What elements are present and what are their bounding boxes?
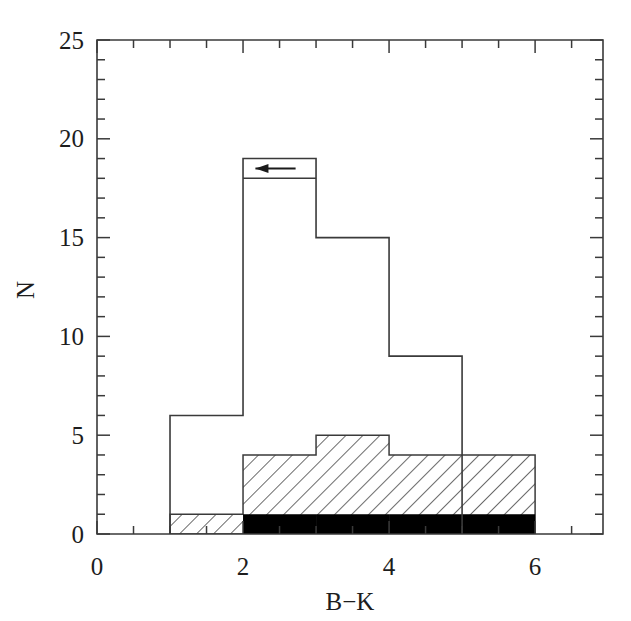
x-tick-label-0: 0 xyxy=(91,553,104,580)
y-axis-title: N xyxy=(12,281,39,299)
x-tick-label-2: 2 xyxy=(237,553,250,580)
y-tick-label-0: 0 xyxy=(72,521,85,548)
histogram-figure: 0 2 4 6 0 5 10 15 20 25 B−K N xyxy=(0,0,631,621)
x-tick-label-4: 4 xyxy=(383,553,396,580)
x-axis-title: B−K xyxy=(326,588,375,615)
plot-canvas: 0 2 4 6 0 5 10 15 20 25 B−K N xyxy=(0,0,631,621)
y-tick-label-5: 5 xyxy=(72,422,85,449)
y-tick-label-25: 25 xyxy=(59,27,84,54)
x-tick-label-6: 6 xyxy=(529,553,542,580)
y-tick-label-15: 15 xyxy=(59,224,84,251)
y-tick-label-10: 10 xyxy=(59,323,84,350)
y-tick-label-20: 20 xyxy=(59,125,84,152)
